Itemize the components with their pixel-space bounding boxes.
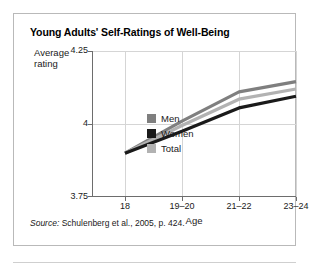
plot-inner	[92, 51, 296, 197]
source-label: Source:	[30, 218, 59, 228]
legend-item-total: Total	[147, 142, 194, 155]
legend-item-women: Women	[147, 127, 194, 140]
x-tick-label-23-24: 23–24	[283, 201, 308, 211]
figure-title: Young Adults' Self-Ratings of Well-Being	[30, 26, 230, 38]
legend-swatch-total	[147, 144, 156, 153]
figure-frame: Young Adults' Self-Ratings of Well-Being…	[13, 13, 296, 246]
legend-label-total: Total	[161, 143, 181, 154]
legend-label-men: Men	[161, 113, 179, 124]
x-axis-tick-labels: 18 19–20 21–22 23–24	[92, 201, 296, 214]
source-note: Source: Schulenberg et al., 2005, p. 424…	[30, 218, 185, 228]
x-tick-label-18: 18	[120, 201, 130, 211]
legend-swatch-women	[147, 129, 156, 138]
legend-item-men: Men	[147, 112, 194, 125]
source-citation: Schulenberg et al., 2005, p. 424.	[59, 218, 184, 228]
gridline-x-23-24	[296, 51, 297, 197]
x-tick-label-21-22: 21–22	[226, 201, 251, 211]
bottom-hairline	[13, 262, 296, 263]
legend-label-women: Women	[161, 128, 194, 139]
y-tick-label-425: 4.25	[70, 45, 88, 55]
y-axis-tick-labels: 4.25 4 3.75	[56, 51, 88, 197]
y-tick-label-4: 4	[83, 118, 88, 128]
plot-area	[92, 51, 296, 197]
series-lines	[92, 51, 296, 197]
chart-legend: Men Women Total	[147, 112, 194, 155]
y-tick-label-375: 3.75	[70, 191, 88, 201]
x-tick-label-19-20: 19–20	[169, 201, 194, 211]
legend-swatch-men	[147, 114, 156, 123]
